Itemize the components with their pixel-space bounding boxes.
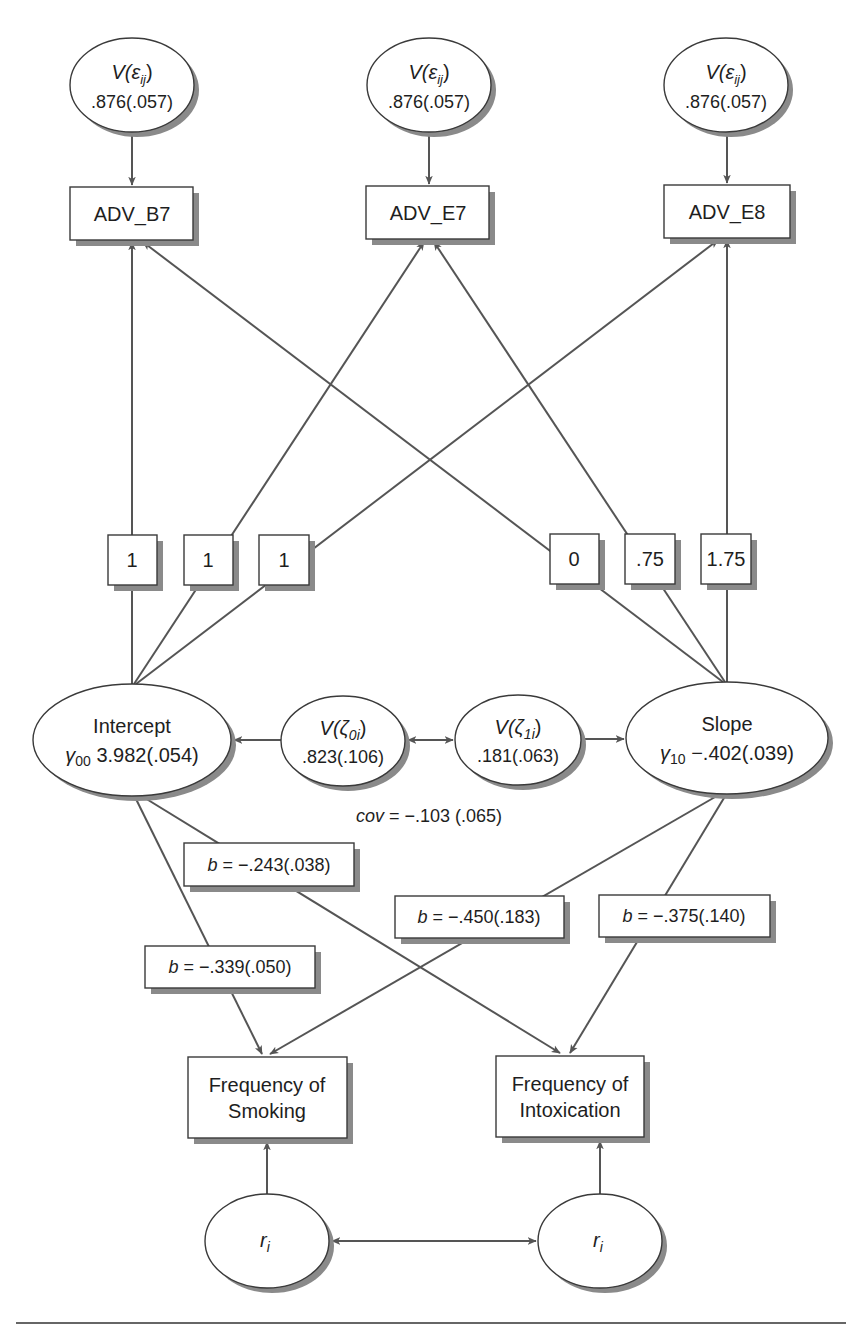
zeta0-variance: V(ζ0i) .823(.106) [281, 696, 410, 791]
path-coef-slope-intoxication: b = −.375(.140) [599, 895, 776, 943]
error-variance-node-2: V(εij) .876(.057) [367, 38, 496, 137]
arrow-intercept-to-adv-e7 [134, 242, 424, 684]
residual-intoxication: ri [538, 1194, 667, 1293]
svg-text:.823(.106): .823(.106) [302, 747, 384, 767]
slope-loading-2: .75 [625, 534, 681, 590]
zeta1-variance: V(ζ1i) .181(.063) [455, 695, 586, 790]
arrow-slope-to-adv-e7 [434, 242, 725, 682]
intercept-loading-3: 1 [259, 535, 315, 591]
slope-loading-1: 0 [550, 534, 605, 590]
error-variance-value: .876(.057) [91, 92, 173, 112]
svg-text:Frequency of: Frequency of [512, 1073, 629, 1095]
arrow-slope-to-adv-b7 [143, 242, 723, 682]
svg-text:b = −.243(.038): b = −.243(.038) [207, 855, 330, 875]
svg-text:0: 0 [568, 548, 579, 570]
svg-text:ADV_B7: ADV_B7 [94, 203, 171, 226]
intercept-factor: Intercept γ00 3.982(.054) [33, 684, 236, 801]
path-coef-intercept-intoxication: b = −.243(.038) [184, 843, 360, 892]
svg-text:.181(.063): .181(.063) [477, 746, 559, 766]
svg-text:Slope: Slope [701, 713, 752, 735]
svg-text:ADV_E7: ADV_E7 [390, 202, 467, 225]
svg-text:b = −.375(.140): b = −.375(.140) [622, 906, 745, 926]
svg-text:b = −.450(.183): b = −.450(.183) [417, 907, 540, 927]
svg-text:ADV_E8: ADV_E8 [689, 201, 766, 224]
covariance-label: cov = −.103 (.065) [356, 806, 502, 826]
svg-text:Intoxication: Intoxication [519, 1099, 620, 1121]
outcome-smoking: Frequency of Smoking [188, 1057, 353, 1144]
intercept-loading-1: 1 [108, 535, 163, 591]
indicator-adv-e8: ADV_E8 [664, 185, 796, 244]
svg-text:1: 1 [202, 549, 213, 571]
slope-loading-3: 1.75 [701, 534, 757, 590]
arrow-intercept-to-smoking [134, 795, 262, 1054]
slope-factor: Slope γ10 −.402(.039) [626, 682, 833, 799]
residual-smoking: ri [205, 1194, 334, 1293]
indicator-adv-e7: ADV_E7 [366, 186, 495, 245]
svg-text:b = −.339(.050): b = −.339(.050) [168, 957, 291, 977]
arrow-intercept-to-adv-e8 [136, 240, 718, 684]
svg-text:1: 1 [126, 549, 137, 571]
growth-model-diagram: V(εij) .876(.057) V(εij) .876(.057) V(εi… [0, 0, 862, 1333]
indicator-adv-b7: ADV_B7 [70, 187, 199, 246]
error-variance-value: .876(.057) [685, 92, 767, 112]
path-coef-slope-smoking: b = −.450(.183) [395, 896, 570, 944]
svg-text:Frequency of: Frequency of [209, 1074, 326, 1096]
svg-text:.75: .75 [636, 548, 664, 570]
error-variance-node-1: V(εij) .876(.057) [70, 38, 199, 137]
error-variance-node-3: V(εij) .876(.057) [664, 38, 793, 137]
outcome-intoxication: Frequency of Intoxication [496, 1056, 650, 1143]
path-coef-intercept-smoking: b = −.339(.050) [145, 946, 321, 994]
svg-text:1.75: 1.75 [707, 548, 746, 570]
svg-text:Smoking: Smoking [228, 1100, 306, 1122]
svg-text:Intercept: Intercept [93, 715, 171, 737]
error-variance-value: .876(.057) [388, 92, 470, 112]
intercept-loading-2: 1 [184, 535, 239, 591]
svg-text:1: 1 [278, 549, 289, 571]
